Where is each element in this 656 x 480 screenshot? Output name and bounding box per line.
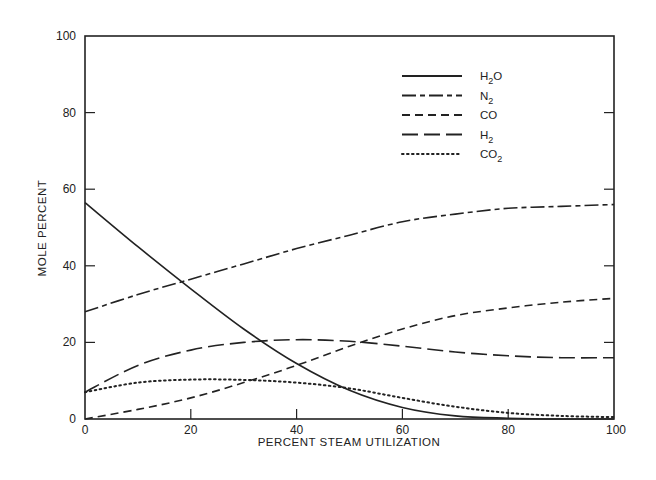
legend-label: N2 [480, 90, 493, 106]
series-co-line [85, 298, 614, 419]
y-axis-title: MOLE PERCENT [36, 180, 48, 277]
legend-label: CO [480, 109, 497, 121]
x-axis-title: PERCENT STEAM UTILIZATION [258, 436, 441, 448]
line-chart: 020406080100020406080100 H2ON2COH2CO2 PE… [0, 0, 656, 480]
data-series [85, 203, 614, 419]
legend-item-n2: N2 [402, 90, 493, 106]
legend-item-co: CO [402, 109, 497, 121]
x-tick-label: 60 [396, 423, 410, 437]
y-tick-label: 0 [69, 412, 76, 426]
x-tick-label: 20 [184, 423, 198, 437]
y-tick-label: 80 [63, 106, 77, 120]
legend-label: CO2 [480, 148, 502, 164]
axis-ticks: 020406080100020406080100 [56, 29, 626, 437]
series-n2-line [85, 205, 614, 312]
legend-item-h2o: H2O [402, 70, 502, 86]
y-tick-label: 40 [63, 259, 77, 273]
y-tick-label: 20 [63, 335, 77, 349]
legend-label: H2 [480, 129, 493, 145]
x-tick-label: 80 [502, 423, 516, 437]
plot-border [85, 36, 614, 419]
legend-label: H2O [480, 70, 502, 86]
series-h2-line [85, 340, 614, 393]
plot-frame [85, 36, 614, 419]
legend: H2ON2COH2CO2 [402, 70, 502, 164]
series-co2-line [85, 379, 614, 417]
legend-item-co2: CO2 [402, 148, 502, 164]
x-tick-label: 40 [290, 423, 304, 437]
y-tick-label: 100 [56, 29, 76, 43]
x-tick-label: 100 [606, 423, 626, 437]
x-tick-label: 0 [82, 423, 89, 437]
legend-item-h2: H2 [402, 129, 493, 145]
y-tick-label: 60 [63, 182, 77, 196]
